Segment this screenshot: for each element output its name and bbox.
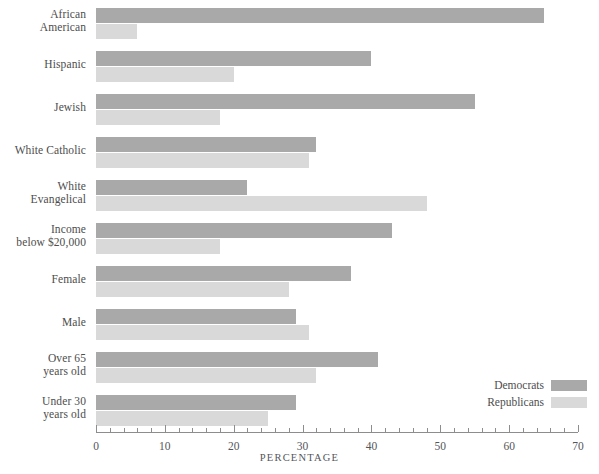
x-tick-minor bbox=[468, 428, 469, 432]
bar-pair bbox=[96, 137, 316, 168]
bar-pair bbox=[96, 266, 351, 297]
bar-democrats bbox=[96, 8, 544, 23]
x-tick-label: 50 bbox=[420, 440, 460, 452]
x-tick-minor bbox=[151, 428, 152, 432]
bar-democrats bbox=[96, 94, 475, 109]
x-tick-minor bbox=[261, 428, 262, 432]
x-tick-minor bbox=[482, 428, 483, 432]
chart-group: Male bbox=[0, 309, 599, 347]
x-tick-minor bbox=[289, 428, 290, 432]
x-tick-label: 10 bbox=[145, 440, 185, 452]
category-label: Jewish bbox=[0, 101, 86, 114]
chart-group: AfricanAmerican bbox=[0, 8, 599, 46]
x-tick-minor bbox=[330, 428, 331, 432]
legend-swatch-democrats bbox=[551, 380, 587, 391]
bar-pair bbox=[96, 180, 427, 211]
chart-group: Hispanic bbox=[0, 51, 599, 89]
chart-group: White Catholic bbox=[0, 137, 599, 175]
category-label: AfricanAmerican bbox=[0, 8, 86, 34]
x-tick-minor bbox=[454, 428, 455, 432]
chart-group: Incomebelow $20,000 bbox=[0, 223, 599, 261]
x-tick-label: 20 bbox=[214, 440, 254, 452]
bar-republicans bbox=[96, 411, 268, 426]
category-label: Under 30years old bbox=[0, 395, 86, 421]
x-tick-major bbox=[96, 425, 97, 432]
bar-chart: AfricanAmericanHispanicJewishWhite Catho… bbox=[0, 0, 599, 474]
bar-pair bbox=[96, 309, 309, 340]
x-axis-title: PERCENTAGE bbox=[0, 452, 599, 463]
x-tick-minor bbox=[137, 428, 138, 432]
x-tick-major bbox=[371, 425, 372, 432]
x-tick-label: 70 bbox=[558, 440, 598, 452]
x-tick-major bbox=[509, 425, 510, 432]
bar-republicans bbox=[96, 196, 427, 211]
bar-democrats bbox=[96, 395, 296, 410]
bar-democrats bbox=[96, 180, 247, 195]
chart-group: Jewish bbox=[0, 94, 599, 132]
bar-pair bbox=[96, 352, 378, 383]
bar-republicans bbox=[96, 239, 220, 254]
legend-label-republicans: Republicans bbox=[487, 396, 544, 408]
category-label: Incomebelow $20,000 bbox=[0, 223, 86, 249]
x-tick-minor bbox=[110, 428, 111, 432]
bar-democrats bbox=[96, 51, 371, 66]
bar-democrats bbox=[96, 309, 296, 324]
bar-pair bbox=[96, 223, 392, 254]
x-tick-major bbox=[303, 425, 304, 432]
bar-republicans bbox=[96, 24, 137, 39]
chart-legend: Democrats Republicans bbox=[462, 378, 587, 412]
x-tick-minor bbox=[247, 428, 248, 432]
category-label: Female bbox=[0, 273, 86, 286]
x-tick-minor bbox=[275, 428, 276, 432]
legend-item-republicans: Republicans bbox=[462, 395, 587, 409]
bar-democrats bbox=[96, 223, 392, 238]
x-tick-minor bbox=[495, 428, 496, 432]
category-label: Over 65years old bbox=[0, 352, 86, 378]
x-tick-label: 40 bbox=[351, 440, 391, 452]
x-tick-major bbox=[440, 425, 441, 432]
category-label: White Catholic bbox=[0, 144, 86, 157]
x-tick-minor bbox=[399, 428, 400, 432]
bar-democrats bbox=[96, 137, 316, 152]
x-tick-minor bbox=[413, 428, 414, 432]
x-tick-label: 60 bbox=[489, 440, 529, 452]
x-tick-minor bbox=[427, 428, 428, 432]
x-tick-minor bbox=[385, 428, 386, 432]
x-tick-minor bbox=[220, 428, 221, 432]
bar-republicans bbox=[96, 368, 316, 383]
bar-republicans bbox=[96, 153, 309, 168]
bar-democrats bbox=[96, 266, 351, 281]
bar-pair bbox=[96, 395, 296, 426]
category-label: Hispanic bbox=[0, 58, 86, 71]
bar-pair bbox=[96, 51, 371, 82]
x-tick-minor bbox=[358, 428, 359, 432]
bar-republicans bbox=[96, 325, 309, 340]
x-tick-major bbox=[234, 425, 235, 432]
bar-republicans bbox=[96, 110, 220, 125]
bar-democrats bbox=[96, 352, 378, 367]
bar-pair bbox=[96, 8, 544, 39]
x-tick-minor bbox=[179, 428, 180, 432]
x-tick-major bbox=[578, 425, 579, 432]
x-tick-minor bbox=[344, 428, 345, 432]
x-tick-minor bbox=[564, 428, 565, 432]
x-tick-minor bbox=[192, 428, 193, 432]
x-tick-minor bbox=[523, 428, 524, 432]
legend-label-democrats: Democrats bbox=[494, 379, 544, 391]
x-tick-label: 30 bbox=[283, 440, 323, 452]
x-tick-minor bbox=[206, 428, 207, 432]
bar-republicans bbox=[96, 67, 234, 82]
legend-swatch-republicans bbox=[551, 397, 587, 408]
x-axis-line bbox=[96, 432, 578, 433]
category-label: WhiteEvangelical bbox=[0, 180, 86, 206]
legend-item-democrats: Democrats bbox=[462, 378, 587, 392]
bar-republicans bbox=[96, 282, 289, 297]
bar-pair bbox=[96, 94, 475, 125]
x-tick-minor bbox=[550, 428, 551, 432]
x-tick-major bbox=[165, 425, 166, 432]
x-tick-minor bbox=[537, 428, 538, 432]
x-tick-label: 0 bbox=[76, 440, 116, 452]
chart-group: WhiteEvangelical bbox=[0, 180, 599, 218]
x-tick-minor bbox=[316, 428, 317, 432]
chart-group: Female bbox=[0, 266, 599, 304]
